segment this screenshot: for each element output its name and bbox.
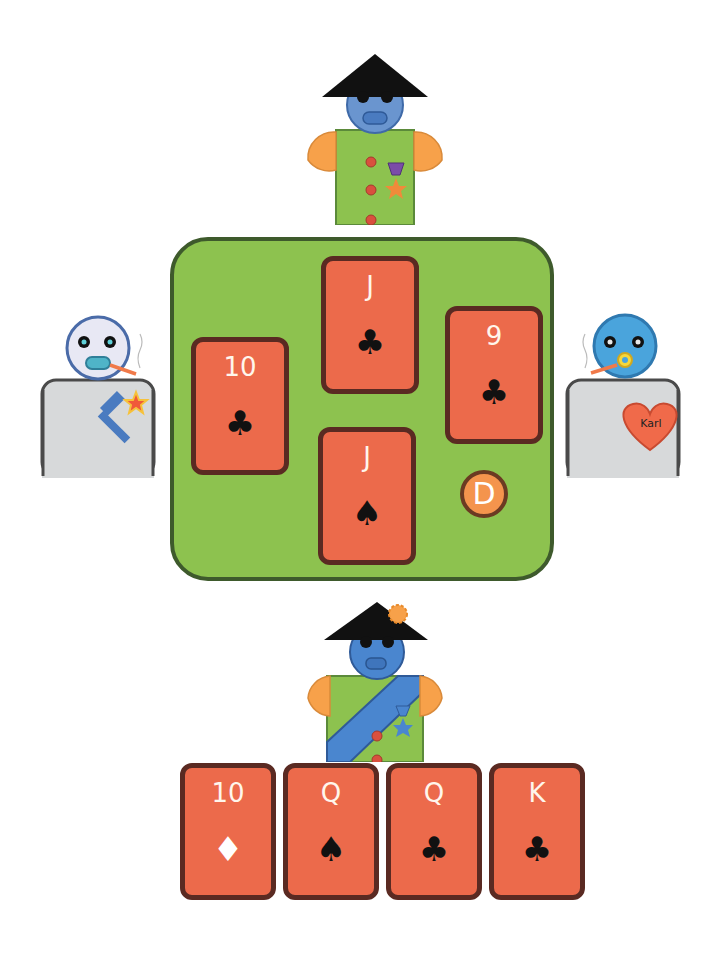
card-rank: K: [494, 778, 580, 808]
spades-icon: ♠: [323, 494, 411, 532]
player-top: [300, 50, 450, 225]
hand-card-q-spades[interactable]: Q ♠: [283, 763, 379, 900]
player-left-avatar-icon: [40, 310, 160, 480]
hand-card-q-clubs[interactable]: Q ♣: [386, 763, 482, 900]
clubs-icon: ♣: [326, 323, 414, 361]
played-card-top: J ♣: [321, 256, 419, 394]
played-card-left: 10 ♣: [191, 337, 289, 475]
player-bottom-avatar-icon: [300, 592, 450, 762]
clubs-icon: ♣: [450, 373, 538, 411]
card-rank: J: [323, 442, 411, 472]
player-bottom: [300, 592, 450, 762]
card-rank: 10: [185, 778, 271, 808]
card-rank: Q: [391, 778, 477, 808]
card-rank: J: [326, 271, 414, 301]
player-right-avatar-icon: [565, 310, 685, 480]
clubs-icon: ♣: [391, 830, 477, 868]
dealer-chip: D: [460, 470, 508, 518]
hand-card-10-diamonds[interactable]: 10 ♦: [180, 763, 276, 900]
card-rank: Q: [288, 778, 374, 808]
played-card-right: 9 ♣: [445, 306, 543, 444]
player-left: [40, 310, 160, 480]
heart-badge-label: Karl: [633, 417, 669, 430]
player-right: Karl: [565, 310, 685, 480]
player-top-avatar-icon: [300, 50, 450, 225]
diamonds-icon: ♦: [185, 830, 271, 868]
spades-icon: ♠: [288, 830, 374, 868]
card-rank: 9: [450, 321, 538, 351]
clubs-icon: ♣: [196, 404, 284, 442]
hand-card-k-clubs[interactable]: K ♣: [489, 763, 585, 900]
played-card-bottom: J ♠: [318, 427, 416, 565]
card-rank: 10: [196, 352, 284, 382]
clubs-icon: ♣: [494, 830, 580, 868]
